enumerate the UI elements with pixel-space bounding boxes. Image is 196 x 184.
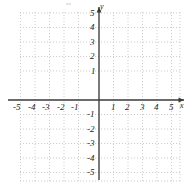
x-tick-label-neg1: -1 xyxy=(71,103,79,112)
grid-lines-vertical xyxy=(21,12,172,181)
x-tick-label-1: 1 xyxy=(111,103,116,112)
x-tick-label-5: 5 xyxy=(169,103,174,112)
y-tick-label-1: 1 xyxy=(91,67,96,76)
y-tick-label-neg1: -1 xyxy=(87,110,95,119)
x-tick-label-neg3: -3 xyxy=(42,103,50,112)
coordinate-plane-figure: -5 -4 -3 -2 -1 1 2 3 4 5 5 4 3 2 1 -1 -2… xyxy=(0,0,196,184)
y-tick-label-4: 4 xyxy=(90,23,95,32)
coordinate-grid xyxy=(0,0,196,184)
x-axis-name: x xyxy=(180,102,184,110)
x-tick-label-neg4: -4 xyxy=(28,103,36,112)
y-tick-label-neg3: -3 xyxy=(87,139,95,148)
y-tick-label-5: 5 xyxy=(90,9,95,18)
y-tick-label-2: 2 xyxy=(90,52,95,61)
grid-border xyxy=(20,12,180,181)
x-tick-label-2: 2 xyxy=(125,103,130,112)
y-axis-name: y xyxy=(100,3,104,11)
x-tick-label-4: 4 xyxy=(154,103,159,112)
y-tick-label-neg2: -2 xyxy=(87,125,95,134)
y-tick-label-neg4: -4 xyxy=(87,154,95,163)
grid-lines-horizontal xyxy=(20,13,180,173)
x-tick-label-neg2: -2 xyxy=(57,103,65,112)
y-tick-label-3: 3 xyxy=(90,38,95,47)
y-tick-label-neg5: -5 xyxy=(87,168,95,177)
x-tick-label-neg5: -5 xyxy=(13,103,21,112)
x-tick-label-3: 3 xyxy=(140,103,145,112)
